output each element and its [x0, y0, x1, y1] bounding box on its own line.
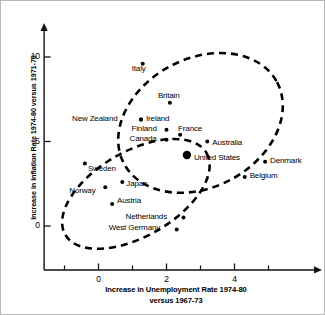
- point-label-belgium: Belgium: [250, 171, 278, 180]
- point-label-sweden: Sweden: [88, 164, 116, 173]
- data-point-australia: [205, 140, 209, 144]
- y-axis-title: Increase in Inflation Rate 1974-80 versu…: [29, 28, 38, 248]
- scatter-plot: 0240510 ItalyBritainNew ZealandIrelandFi…: [1, 1, 325, 315]
- data-point-austria: [110, 202, 114, 206]
- data-point-west-germany: [175, 227, 179, 231]
- point-label-united-states: United States: [194, 153, 240, 162]
- data-point-sweden: [83, 161, 87, 165]
- point-label-denmark: Denmark: [270, 156, 301, 165]
- point-label-norway: Norway: [69, 186, 95, 195]
- point-label-britain: Britain: [158, 91, 180, 100]
- x-axis-arrow: [314, 266, 322, 273]
- data-point-belgium: [243, 175, 247, 179]
- x-tick-label: 4: [225, 274, 245, 284]
- axis-layer: [41, 23, 323, 274]
- x-axis-title-line2: versus 1967-73: [41, 295, 311, 306]
- data-point-britain: [168, 101, 172, 105]
- data-point-norway: [103, 185, 107, 189]
- point-label-canada: Canada: [130, 134, 157, 143]
- point-label-italy: Italy: [132, 64, 146, 73]
- x-axis-title-line1: Increase in Unemployment Rate 1974-80: [41, 284, 311, 295]
- x-tick-label: 0: [89, 274, 109, 284]
- point-label-new-zealand: New Zealand: [72, 114, 118, 123]
- point-label-west-germany: West Germany: [109, 223, 160, 232]
- data-point-finland: [165, 128, 169, 132]
- point-label-japan: Japan: [126, 179, 147, 188]
- data-point-denmark: [263, 160, 267, 164]
- cluster-ellipse-layer: [44, 25, 307, 271]
- point-label-france: France: [178, 124, 202, 133]
- point-label-finland: Finland: [132, 124, 157, 133]
- point-label-australia: Australia: [212, 138, 242, 147]
- point-label-netherlands: Netherlands: [126, 212, 168, 221]
- point-label-austria: Austria: [117, 196, 141, 205]
- x-axis-title: Increase in Unemployment Rate 1974-80 ve…: [41, 284, 311, 306]
- data-point-ireland: [139, 118, 143, 122]
- x-tick-label: 2: [157, 274, 177, 284]
- y-axis-arrow: [41, 23, 48, 31]
- data-point-france: [178, 133, 182, 137]
- data-point-canada: [165, 138, 169, 142]
- chart-figure: 0240510 ItalyBritainNew ZealandIrelandFi…: [0, 0, 325, 315]
- data-point-layer: [83, 62, 267, 232]
- data-point-united-states: [183, 151, 191, 159]
- point-label-ireland: Ireland: [146, 114, 169, 123]
- data-point-japan: [120, 180, 124, 184]
- data-point-netherlands: [182, 216, 186, 220]
